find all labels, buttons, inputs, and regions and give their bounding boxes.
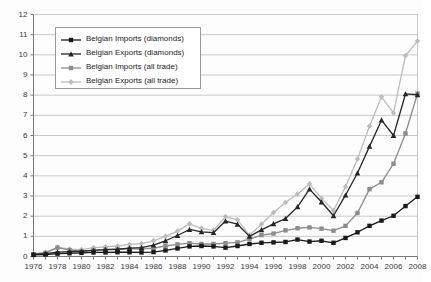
y-tick-label: 9	[0, 70, 28, 79]
legend-item: Belgian Exports (all trade)	[56, 73, 200, 87]
legend-label: Belgian Imports (all trade)	[86, 62, 178, 71]
y-tick-label: 10	[0, 50, 28, 59]
y-tick-label: 0	[0, 252, 28, 261]
legend-item: Belgian Imports (diamonds)	[56, 31, 200, 45]
y-tick-label: 6	[0, 131, 28, 140]
y-tick-label: 1	[0, 231, 28, 240]
legend-marker-triangle-dark	[60, 46, 82, 58]
legend-label: Belgian Exports (all trade)	[86, 76, 178, 85]
y-tick-label: 5	[0, 151, 28, 160]
legend-item: Belgian Imports (all trade)	[56, 59, 200, 73]
legend-marker-square-gray	[60, 60, 82, 72]
legend-label: Belgian Imports (diamonds)	[86, 34, 184, 43]
legend-marker-diamond-light	[60, 74, 82, 86]
y-tick-label: 7	[0, 110, 28, 119]
legend-label: Belgian Exports (diamonds)	[86, 48, 184, 57]
y-tick-label: 12	[0, 10, 28, 19]
y-tick-label: 8	[0, 90, 28, 99]
y-tick-label: 11	[0, 30, 28, 39]
legend-item: Belgian Exports (diamonds)	[56, 45, 200, 59]
x-tick-label: 2008	[404, 262, 431, 271]
y-tick-label: 2	[0, 211, 28, 220]
y-tick-label: 4	[0, 171, 28, 180]
chart-legend: Belgian Imports (diamonds) Belgian Expor…	[55, 27, 201, 89]
y-tick-label: 3	[0, 191, 28, 200]
legend-marker-square-dark	[60, 32, 82, 44]
